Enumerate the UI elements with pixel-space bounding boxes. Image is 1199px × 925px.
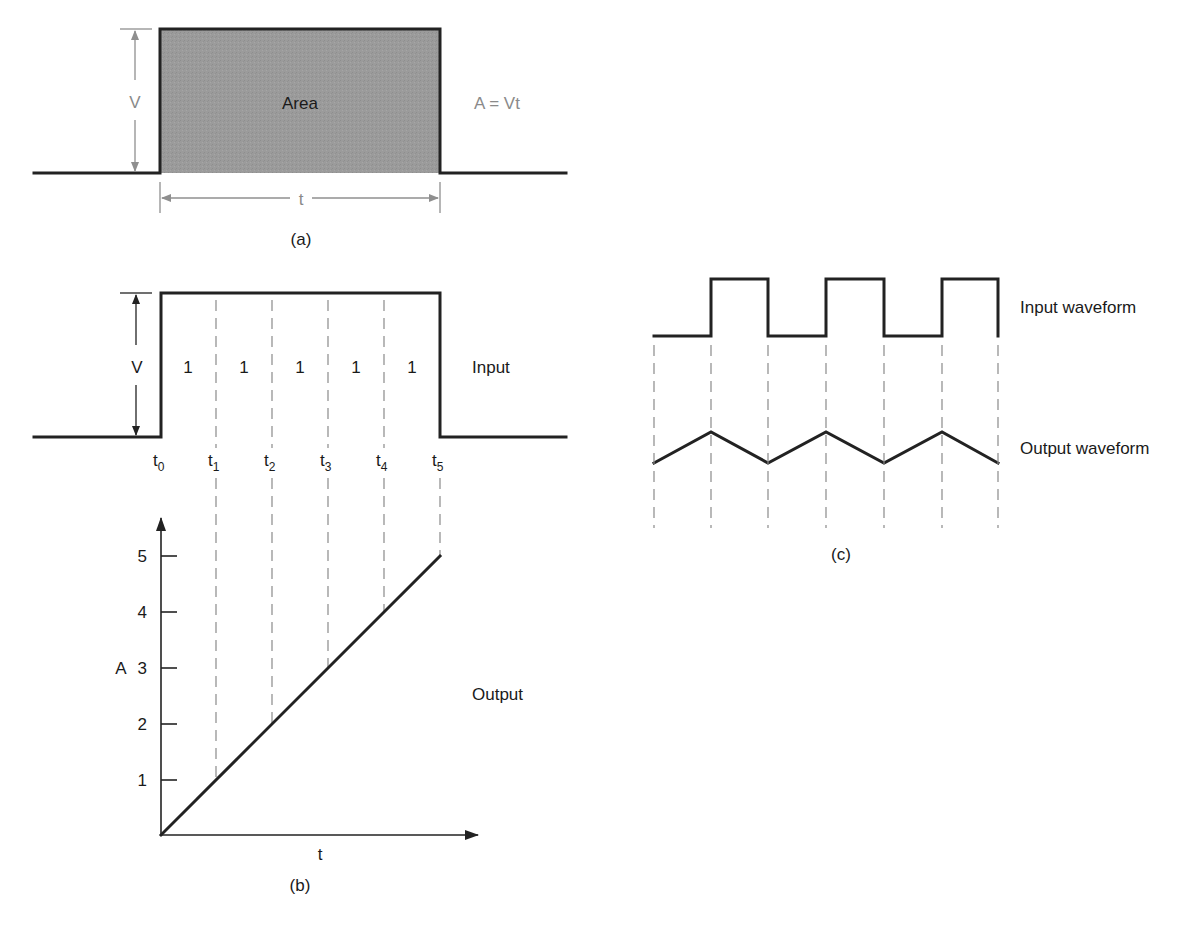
output-label: Output	[472, 685, 523, 704]
input-label: Input	[472, 358, 510, 377]
output-waveform-label: Output waveform	[1020, 439, 1149, 458]
caption-a: (a)	[291, 230, 312, 249]
input-square-wave	[654, 279, 998, 336]
time-label-t4: t4	[376, 451, 388, 474]
integrator-diagram: V t Area A = Vt (a) V 1 1 1 1 1 Input t0	[0, 0, 1199, 925]
area-label: Area	[282, 94, 318, 113]
y-tick-label: 4	[138, 603, 147, 622]
panel-a: V t Area A = Vt (a)	[34, 29, 566, 249]
width-label: t	[299, 190, 304, 209]
segment-value: 1	[183, 358, 192, 377]
caption-b: (b)	[290, 876, 311, 895]
input-height-label: V	[131, 358, 143, 377]
y-tick-label: 3	[138, 659, 147, 678]
height-label: V	[129, 93, 141, 112]
time-label-t1: t1	[208, 451, 220, 474]
output-ramp	[161, 556, 440, 835]
time-label-t0: t0	[153, 451, 165, 474]
time-label-t5: t5	[432, 451, 444, 474]
segment-value: 1	[351, 358, 360, 377]
time-label-t3: t3	[320, 451, 332, 474]
input-waveform-label: Input waveform	[1020, 298, 1136, 317]
panel-c: Input waveform Output waveform (c)	[654, 279, 1149, 564]
panel-b: V 1 1 1 1 1 Input t0 t1 t2 t3 t4 t5	[34, 293, 566, 895]
time-label-t2: t2	[264, 451, 276, 474]
area-formula: A = Vt	[474, 94, 520, 113]
segment-value: 1	[239, 358, 248, 377]
y-tick-label: 1	[138, 771, 147, 790]
segment-value: 1	[295, 358, 304, 377]
y-axis-label: A	[115, 659, 127, 678]
caption-c: (c)	[831, 545, 851, 564]
y-tick-label: 2	[138, 715, 147, 734]
x-axis-label: t	[318, 845, 323, 864]
y-tick-label: 5	[138, 547, 147, 566]
segment-value: 1	[407, 358, 416, 377]
